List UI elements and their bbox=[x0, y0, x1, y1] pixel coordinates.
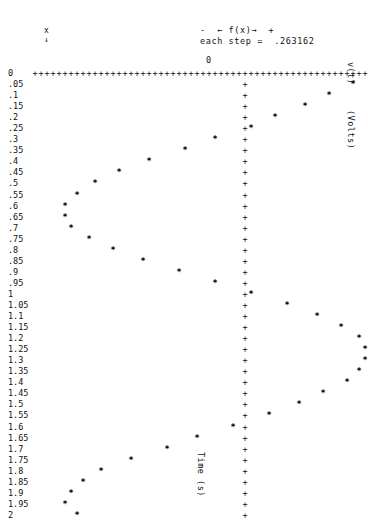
axis-tick-char: + bbox=[242, 278, 248, 289]
data-point-marker: * bbox=[116, 167, 122, 178]
axis-tick-char: + bbox=[242, 156, 248, 167]
axis-tick-char: + bbox=[242, 267, 248, 278]
plot-row: +* bbox=[0, 190, 368, 201]
down-arrow-icon: ↓ bbox=[44, 35, 49, 44]
data-point-marker: * bbox=[212, 278, 218, 289]
data-point-marker: * bbox=[230, 422, 236, 433]
plot-row: +* bbox=[0, 410, 368, 421]
axis-tick-char: + bbox=[242, 410, 248, 421]
axis-tick-char: + bbox=[242, 499, 248, 510]
data-point-marker: * bbox=[356, 333, 362, 344]
plot-row: +* bbox=[0, 167, 368, 178]
axis-tick-char: + bbox=[242, 355, 248, 366]
plot-row: +* bbox=[0, 477, 368, 488]
axis-tick-char: + bbox=[242, 510, 248, 521]
axis-tick-char: + bbox=[242, 112, 248, 123]
axis-tick-char: + bbox=[242, 223, 248, 234]
axis-tick-char: + bbox=[242, 477, 248, 488]
axis-tick-char: + bbox=[242, 388, 248, 399]
data-point-marker: * bbox=[266, 410, 272, 421]
axis-tick-char: + bbox=[242, 366, 248, 377]
data-point-marker: * bbox=[68, 488, 74, 499]
plot-row: +* bbox=[0, 444, 368, 455]
plot-row: +* bbox=[0, 278, 368, 289]
axis-tick-char: + bbox=[242, 377, 248, 388]
data-point-marker: * bbox=[338, 322, 344, 333]
axis-tick-char: + bbox=[242, 311, 248, 322]
plot-row: +* bbox=[0, 488, 368, 499]
plot-row: +* bbox=[0, 300, 368, 311]
axis-tick-char: + bbox=[242, 245, 248, 256]
plot-character-grid: ++++++++++++++++++++++++++++++++++++++++… bbox=[0, 68, 368, 521]
axis-tick-char: + bbox=[242, 101, 248, 112]
axis-tick-char: + bbox=[242, 178, 248, 189]
plot-row: +* bbox=[0, 289, 368, 300]
x-marker-letter: x bbox=[44, 26, 49, 35]
data-point-marker: * bbox=[62, 499, 68, 510]
data-point-marker: * bbox=[248, 123, 254, 134]
plot-row: +* bbox=[0, 101, 368, 112]
data-point-marker: * bbox=[182, 145, 188, 156]
plot-row: +* bbox=[0, 145, 368, 156]
origin-tick-label: 0 bbox=[206, 55, 211, 65]
axis-tick-char: + bbox=[242, 399, 248, 410]
data-point-marker: * bbox=[356, 366, 362, 377]
plot-row: +* bbox=[0, 466, 368, 477]
data-point-marker: * bbox=[80, 477, 86, 488]
axis-tick-char: + bbox=[242, 234, 248, 245]
x-axis-direction-marker: x ↓ bbox=[44, 26, 49, 44]
data-point-marker: * bbox=[146, 156, 152, 167]
ascii-plot-root: x ↓ - ← f(x)→ + each step = .263162 0 v(… bbox=[0, 0, 368, 524]
data-point-marker: * bbox=[350, 79, 356, 90]
plot-row: +* bbox=[0, 156, 368, 167]
plot-row: +* bbox=[0, 366, 368, 377]
data-point-marker: * bbox=[68, 223, 74, 234]
plot-row: +* bbox=[0, 79, 368, 90]
data-point-marker: * bbox=[128, 455, 134, 466]
axis-tick-char: + bbox=[242, 444, 248, 455]
data-point-marker: * bbox=[296, 399, 302, 410]
plot-row: +* bbox=[0, 234, 368, 245]
axis-tick-char: + bbox=[242, 333, 248, 344]
data-point-marker: * bbox=[248, 289, 254, 300]
axis-tick-char: + bbox=[242, 466, 248, 477]
axis-tick-char: + bbox=[242, 134, 248, 145]
data-point-marker: * bbox=[98, 466, 104, 477]
axis-tick-char: + bbox=[242, 322, 248, 333]
plot-row: +* bbox=[0, 245, 368, 256]
data-point-marker: * bbox=[74, 190, 80, 201]
data-point-marker: * bbox=[62, 201, 68, 212]
plot-row: +* bbox=[0, 422, 368, 433]
plot-row: +* bbox=[0, 212, 368, 223]
plot-row: +* bbox=[0, 223, 368, 234]
axis-tick-char: + bbox=[242, 190, 248, 201]
plot-row: +* bbox=[0, 178, 368, 189]
data-point-marker: * bbox=[362, 344, 368, 355]
plot-row: +* bbox=[0, 333, 368, 344]
axis-tick-char: + bbox=[242, 433, 248, 444]
data-point-marker: * bbox=[362, 355, 368, 366]
data-point-marker: * bbox=[176, 267, 182, 278]
axis-tick-char: + bbox=[242, 145, 248, 156]
plot-row: +* bbox=[0, 322, 368, 333]
data-point-marker: * bbox=[272, 112, 278, 123]
data-point-marker: * bbox=[74, 510, 80, 521]
axis-tick-char: + bbox=[242, 79, 248, 90]
plot-row: +* bbox=[0, 355, 368, 366]
plot-row: +* bbox=[0, 377, 368, 388]
plot-row: +* bbox=[0, 123, 368, 134]
axis-tick-char: + bbox=[242, 455, 248, 466]
data-point-marker: * bbox=[326, 90, 332, 101]
plot-row: ++++++++++++++++++++++++++++++++++++++++… bbox=[0, 68, 368, 79]
data-point-marker: * bbox=[344, 377, 350, 388]
plot-row: +* bbox=[0, 510, 368, 521]
plot-row: +* bbox=[0, 388, 368, 399]
axis-tick-char: + bbox=[242, 167, 248, 178]
axis-tick-char: + bbox=[242, 201, 248, 212]
plot-row: +* bbox=[0, 344, 368, 355]
axis-tick-char: + bbox=[242, 422, 248, 433]
data-point-marker: * bbox=[86, 234, 92, 245]
axis-tick-char: + bbox=[242, 212, 248, 223]
data-point-marker: * bbox=[140, 256, 146, 267]
data-point-marker: * bbox=[314, 311, 320, 322]
